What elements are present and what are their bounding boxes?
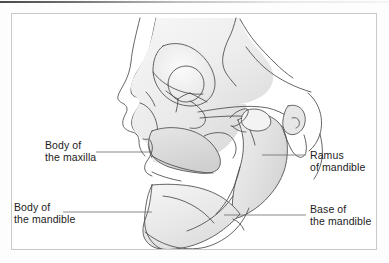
label-base-of-mandible-line1: Base of bbox=[310, 203, 346, 215]
label-ramus-of-mandible: Ramus of mandible bbox=[310, 149, 365, 174]
label-body-of-mandible-line1: Body of bbox=[14, 201, 50, 213]
label-body-of-maxilla-line2: the maxilla bbox=[45, 151, 96, 163]
figure-root: Body of the maxilla Body of the mandible… bbox=[0, 0, 389, 263]
label-body-of-maxilla: Body of the maxilla bbox=[45, 139, 96, 164]
label-base-of-mandible: Base of the mandible bbox=[310, 203, 371, 228]
page-top-rule bbox=[0, 1, 389, 3]
label-body-of-mandible-line2: the mandible bbox=[14, 213, 75, 225]
label-base-of-mandible-line2: the mandible bbox=[310, 215, 371, 227]
label-body-of-mandible: Body of the mandible bbox=[14, 201, 75, 226]
label-ramus-of-mandible-line1: Ramus bbox=[310, 149, 344, 161]
label-body-of-maxilla-line1: Body of bbox=[45, 139, 81, 151]
label-ramus-of-mandible-line2: of mandible bbox=[310, 161, 365, 173]
